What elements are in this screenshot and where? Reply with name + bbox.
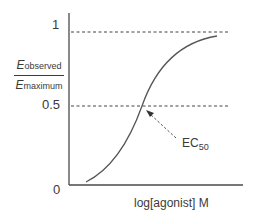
x-axis-label: log[agonist] M	[134, 196, 209, 210]
y-label-denominator-sub: maximum	[24, 81, 63, 91]
ytick-1: 1	[52, 17, 59, 32]
ytick-0: 0	[53, 182, 60, 197]
ec50-text: EC	[182, 136, 199, 150]
y-label-numerator-sub: observed	[24, 61, 61, 71]
ec50-sub: 50	[199, 142, 209, 152]
sigmoid-curve	[86, 36, 217, 182]
ec50-arrow-line	[150, 114, 176, 138]
fraction-bar	[14, 75, 64, 76]
y-axis-label: Eobserved Emaximum	[14, 58, 64, 93]
dose-response-chart	[0, 0, 258, 217]
ytick-0.5: 0.5	[42, 97, 60, 112]
y-label-denominator: E	[15, 78, 23, 92]
ec50-annotation: EC50	[182, 136, 209, 152]
